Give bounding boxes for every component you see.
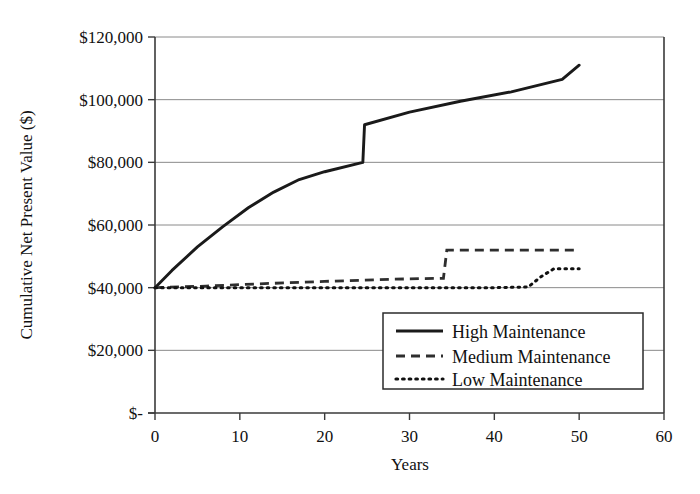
- x-tick-label: 0: [151, 427, 160, 446]
- legend: High Maintenance Medium Maintenance Low …: [383, 313, 643, 390]
- x-tick-labels: 0102030405060: [151, 427, 673, 446]
- x-tick-label: 30: [401, 427, 418, 446]
- legend-label-medium: Medium Maintenance: [452, 347, 610, 367]
- legend-label-low: Low Maintenance: [452, 370, 582, 390]
- x-tick-label: 20: [316, 427, 333, 446]
- series-line-high-maintenance: [155, 65, 579, 287]
- y-axis-title: Cumulative Net Present Value ($): [17, 110, 36, 339]
- y-tick-label: $100,000: [79, 91, 143, 110]
- y-tick-label: $40,000: [88, 279, 143, 298]
- x-axis-title: Years: [391, 455, 429, 474]
- y-tick-labels: $-$20,000$40,000$60,000$80,000$100,000$1…: [79, 28, 143, 423]
- y-tick-label: $20,000: [88, 341, 143, 360]
- chart-container: $-$20,000$40,000$60,000$80,000$100,000$1…: [0, 0, 700, 494]
- x-tick-label: 50: [571, 427, 588, 446]
- legend-label-high: High Maintenance: [452, 322, 585, 342]
- y-tick-label: $60,000: [88, 216, 143, 235]
- data-series: [155, 65, 579, 287]
- y-tick-label: $-: [129, 404, 144, 423]
- x-tick-label: 10: [231, 427, 248, 446]
- y-tick-marks: [148, 37, 155, 413]
- x-tick-marks: [155, 413, 664, 420]
- y-tick-label: $80,000: [88, 153, 143, 172]
- x-tick-label: 60: [656, 427, 673, 446]
- line-chart: $-$20,000$40,000$60,000$80,000$100,000$1…: [0, 0, 700, 494]
- gridlines: [155, 37, 664, 350]
- series-line-medium-maintenance: [155, 250, 579, 288]
- x-tick-label: 40: [486, 427, 503, 446]
- y-tick-label: $120,000: [79, 28, 143, 47]
